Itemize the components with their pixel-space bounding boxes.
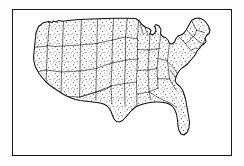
us-map-illustration	[0, 0, 244, 166]
figure-root	[0, 0, 244, 166]
